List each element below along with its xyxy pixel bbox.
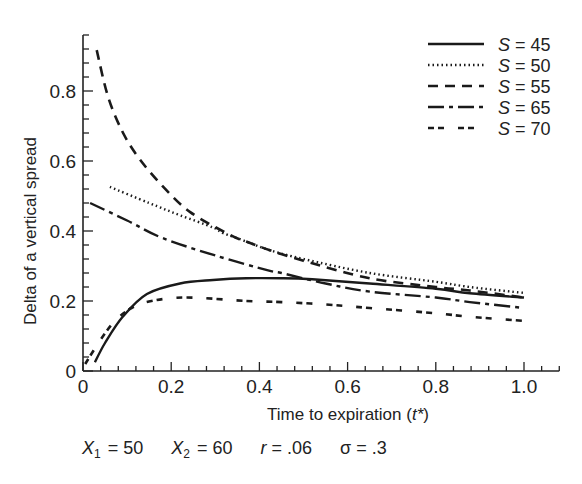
legend-label: S = 55 — [498, 77, 551, 97]
param-r: r = .06 — [261, 438, 313, 461]
y-tick-label: 0.6 — [50, 151, 76, 172]
x-tick-label: 0.8 — [423, 376, 449, 397]
param-sigma: σ = .3 — [340, 438, 387, 461]
x-tick-label: 1.0 — [511, 376, 537, 397]
x-axis-label: Time to expiration (t*) — [267, 405, 429, 424]
axes: 00.20.40.60.81.000.20.40.60.8 — [50, 35, 560, 397]
param-x1: X1 = 50 — [82, 438, 143, 461]
series-lines — [85, 50, 524, 364]
y-tick-label: 0.4 — [50, 221, 77, 242]
y-axis-label: Delta of a vertical spread — [21, 137, 40, 325]
series-line-s45 — [95, 278, 524, 362]
delta-chart: 00.20.40.60.81.000.20.40.60.8 S = 45S = … — [0, 0, 582, 484]
y-tick-label: 0.2 — [50, 291, 76, 312]
legend-label: S = 50 — [498, 56, 551, 76]
y-tick-label: 0.8 — [50, 81, 76, 102]
legend: S = 45S = 50S = 55S = 65S = 70 — [428, 35, 551, 139]
series-line-s70 — [85, 298, 524, 365]
parameters-line: X1 = 50 X2 = 60 r = .06 σ = .3 — [82, 438, 415, 461]
y-tick-label: 0 — [65, 361, 76, 382]
x-tick-label: 0.6 — [334, 376, 360, 397]
series-line-s50 — [110, 187, 524, 293]
x-tick-label: 0.2 — [158, 376, 184, 397]
x-tick-label: 0.4 — [246, 376, 273, 397]
x-tick-label: 0 — [78, 376, 89, 397]
legend-label: S = 45 — [498, 35, 551, 55]
param-x2: X2 = 60 — [171, 438, 232, 461]
series-line-s55 — [97, 50, 524, 297]
legend-label: S = 70 — [498, 119, 551, 139]
legend-label: S = 65 — [498, 98, 551, 118]
